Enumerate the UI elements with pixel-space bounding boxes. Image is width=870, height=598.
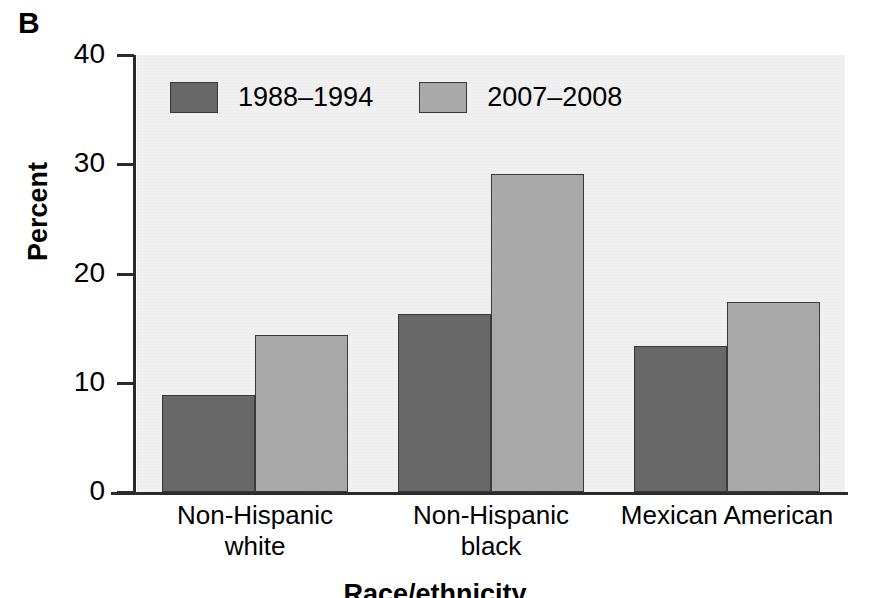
y-tick-label: 20: [0, 259, 105, 287]
legend-swatch-icon-series-0: [170, 82, 218, 113]
x-category-label-1: Non-Hispanic white: [127, 500, 383, 561]
bars-layer: [137, 55, 845, 492]
y-tick-mark: [117, 382, 134, 385]
bar-2-series-1: [398, 314, 491, 492]
bar-1-series-1: [162, 395, 255, 492]
y-tick-label: 40: [0, 40, 105, 68]
y-tick-mark: [117, 163, 134, 166]
y-tick-label: 0: [0, 477, 105, 505]
x-category-label-3: Mexican American: [599, 500, 855, 531]
bar-1-series-2: [255, 335, 348, 492]
legend-item-1988-1994: 1988–1994: [170, 82, 373, 113]
legend-item-2007-2008: 2007–2008: [419, 82, 622, 113]
y-tick-label: 10: [0, 368, 105, 396]
x-category-label-2: Non-Hispanic black: [363, 500, 619, 561]
x-axis-title: Race/ethnicity: [0, 581, 870, 598]
y-tick-mark: [117, 273, 134, 276]
panel-label: B: [18, 8, 40, 38]
x-axis-line: [111, 492, 848, 495]
y-tick-mark: [117, 491, 134, 494]
chart-legend: 1988–1994 2007–2008: [170, 82, 622, 113]
x-axis-category-labels: Non-Hispanic whiteNon-Hispanic blackMexi…: [137, 500, 845, 580]
bar-3-series-2: [727, 302, 820, 492]
legend-label-series-0: 1988–1994: [238, 84, 373, 111]
legend-swatch-icon-series-1: [419, 82, 467, 113]
y-tick-label: 30: [0, 149, 105, 177]
y-tick-mark: [117, 54, 134, 57]
bar-2-series-2: [491, 174, 584, 492]
legend-label-series-1: 2007–2008: [487, 84, 622, 111]
bar-chart-figure: B Percent 010203040 1988–1994 2007–2008 …: [0, 0, 870, 598]
bar-3-series-1: [634, 346, 727, 492]
